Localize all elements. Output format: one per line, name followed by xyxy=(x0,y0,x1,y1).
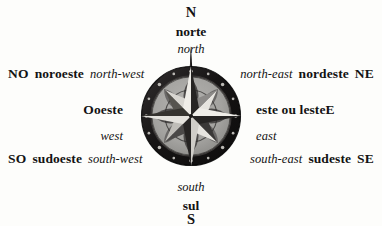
east-label-pt: este ou leste xyxy=(256,102,326,117)
east-abbr: E xyxy=(326,102,335,117)
north-abbr: N xyxy=(0,5,382,20)
west-abbr: O xyxy=(83,102,94,117)
northwest-label-en: north-west xyxy=(90,67,144,81)
west-label-pt: oeste xyxy=(94,102,123,117)
northeast-label-pt: nordeste xyxy=(299,66,349,81)
south-abbr: S xyxy=(0,212,382,226)
east-label-en: east xyxy=(256,129,277,143)
east-line-secondary: east xyxy=(256,126,335,144)
southeast-label-pt: sudeste xyxy=(308,151,351,166)
south-label-en: south xyxy=(0,181,382,194)
northwest-label-group: NOnoroestenorth-west xyxy=(8,64,144,82)
southeast-abbr: SE xyxy=(357,151,374,166)
northeast-label-en: north-east xyxy=(240,67,292,81)
southwest-label-pt: sudoeste xyxy=(32,151,82,166)
west-line-primary: Ooeste xyxy=(83,100,123,118)
northeast-label-group: north-eastnordesteNE xyxy=(240,64,374,82)
compass-rose-diagram: N norte north NOnoroestenorth-west north… xyxy=(0,0,382,226)
west-label-group: Ooeste west xyxy=(83,100,123,144)
northeast-abbr: NE xyxy=(355,66,374,81)
south-label-pt: sul xyxy=(0,199,382,213)
east-line-primary: este ou lesteE xyxy=(256,100,335,118)
compass-rose-icon xyxy=(139,44,244,176)
southwest-label-group: SOsudoestesouth-west xyxy=(8,149,142,167)
southwest-label-en: south-west xyxy=(88,152,142,166)
northwest-abbr: NO xyxy=(8,66,29,81)
west-line-secondary: west xyxy=(83,126,123,144)
northwest-label-pt: noroeste xyxy=(35,66,84,81)
southwest-abbr: SO xyxy=(8,151,26,166)
east-label-group: este ou lesteE east xyxy=(256,100,335,144)
west-label-en: west xyxy=(100,129,123,143)
southeast-label-en: south-east xyxy=(250,152,302,166)
southeast-label-group: south-eastsudesteSE xyxy=(250,149,374,167)
north-label-pt: norte xyxy=(0,25,382,39)
south-label-group: south sul S xyxy=(0,176,382,226)
